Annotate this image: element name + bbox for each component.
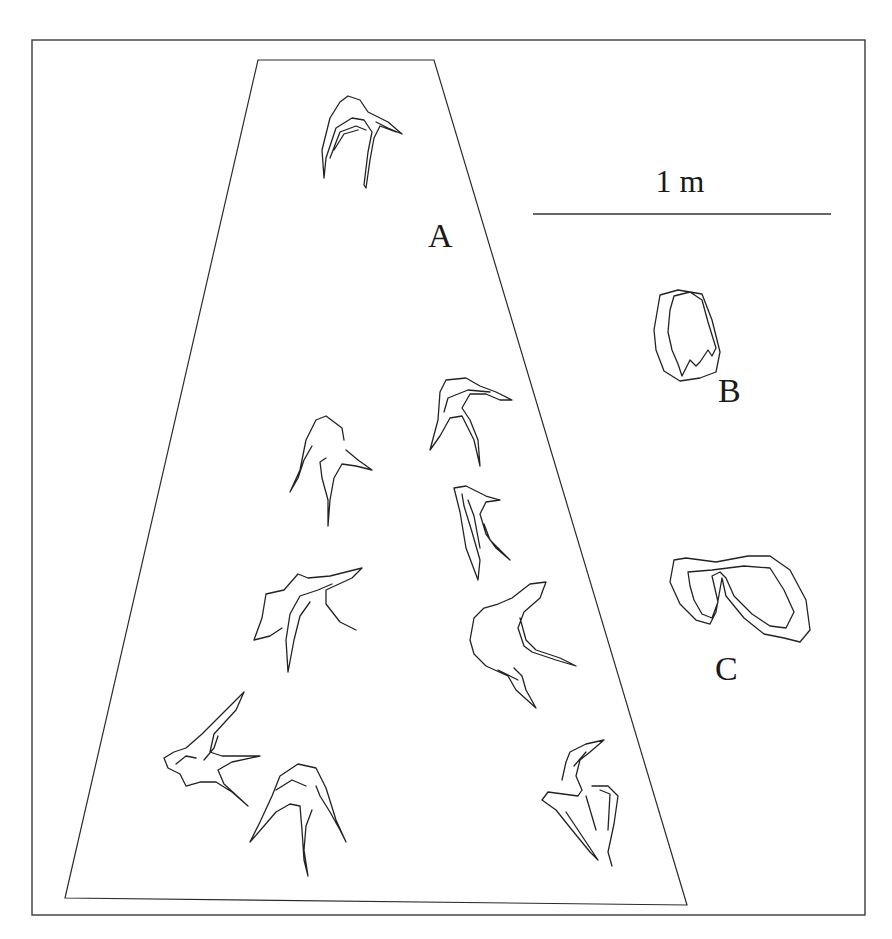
track-a8 bbox=[250, 764, 346, 876]
track-a1 bbox=[322, 96, 402, 188]
track-a4 bbox=[454, 486, 510, 580]
figure-frame bbox=[32, 40, 865, 915]
track-a7 bbox=[164, 692, 260, 806]
track-a3 bbox=[290, 416, 372, 526]
trackway-outline bbox=[65, 60, 687, 905]
label-trackway-a: A bbox=[428, 217, 453, 254]
track-c bbox=[670, 556, 810, 642]
track-b bbox=[654, 290, 720, 381]
track-a9 bbox=[542, 740, 618, 866]
track-a2 bbox=[430, 378, 512, 466]
track-a5 bbox=[254, 568, 362, 672]
scale-bar-label: 1 m bbox=[656, 163, 705, 199]
label-track-b: B bbox=[718, 372, 741, 409]
trackway-figure: A B C 1 m bbox=[0, 0, 892, 939]
label-track-c: C bbox=[715, 650, 738, 687]
footprint-tracks bbox=[164, 96, 810, 876]
track-a6 bbox=[470, 582, 576, 708]
